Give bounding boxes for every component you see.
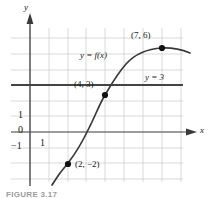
line-label-y-equals-3: y = 3 (145, 73, 164, 82)
y-tick-label-minus-1: −1 (11, 141, 22, 151)
figure-container: y x 1 0 −1 1 y = f(x) y = 3 (7, 6) (4, 3… (0, 0, 213, 198)
x-tick-label-1: 1 (40, 138, 45, 148)
point-7-6 (159, 45, 165, 51)
point-4-3 (102, 92, 108, 98)
point-2-minus2 (65, 161, 71, 167)
function-curve (52, 48, 190, 185)
point-label-4-3: (4, 3) (74, 80, 94, 89)
y-tick-label-1: 1 (18, 110, 23, 120)
x-axis (11, 129, 197, 136)
x-axis-label: x (200, 126, 204, 135)
point-label-2-minus2: (2, −2) (75, 160, 100, 169)
y-axis (27, 13, 34, 186)
graph-canvas (0, 0, 213, 198)
y-axis-label: y (24, 3, 28, 12)
figure-caption: FIGURE 3.17 (6, 190, 57, 198)
curve-label-y-equals-fx: y = f(x) (80, 51, 107, 60)
point-label-7-6: (7, 6) (131, 31, 151, 40)
y-tick-label-0: 0 (18, 125, 23, 135)
